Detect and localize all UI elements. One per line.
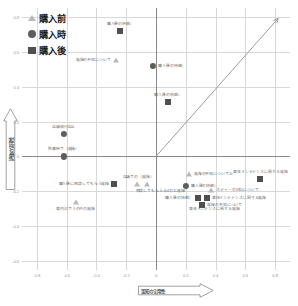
gridline-vertical — [216, 8, 217, 270]
floating-label: 車体メンテンスに関する故障 — [189, 207, 240, 211]
y-axis-tick-label: 0.8 — [2, 14, 19, 19]
data-point-square — [117, 28, 123, 34]
y-axis-tick-label: -0.6 — [2, 259, 19, 264]
x-axis-tick-label: 0.6 — [243, 273, 249, 278]
gridline-vertical — [186, 8, 187, 270]
x-axis-tick-label: -0.6 — [63, 273, 70, 278]
data-point-triangle — [144, 182, 150, 187]
triangle-marker-icon — [28, 15, 36, 21]
gridline-vertical — [67, 8, 68, 270]
data-point-label: 購入後の特典） — [107, 21, 134, 25]
y-axis-line — [156, 8, 157, 270]
data-point-square — [165, 99, 171, 105]
data-point-label: 故障の不知について — [76, 58, 111, 62]
square-marker-icon — [28, 47, 36, 55]
gridline-vertical — [126, 8, 127, 270]
legend-item-purchase-before: 購入前 — [28, 11, 66, 25]
data-point-label: 購入後の特典） — [158, 63, 185, 67]
chart-legend: 購入前 購入時 購入後 — [28, 11, 66, 57]
data-point-triangle — [186, 171, 192, 176]
y-axis-tick-label: 0 — [2, 154, 19, 159]
data-point-label: 購入後の特典） — [191, 184, 218, 188]
y-axis-tick-label: -0.2 — [2, 189, 19, 194]
legend-item-purchase-during: 購入時 — [28, 27, 66, 41]
x-axis-tick-label: 0.2 — [183, 273, 189, 278]
x-axis-tick-label: 0 — [155, 273, 157, 278]
legend-label: 購入前 — [39, 11, 66, 25]
y-axis-tick-label: 0.2 — [2, 119, 19, 124]
gridline-vertical — [96, 8, 97, 270]
legend-item-purchase-after: 購入後 — [28, 43, 66, 57]
data-point-triangle — [113, 58, 119, 63]
data-point-label: 購入後の特典） — [165, 196, 192, 200]
gridline-vertical — [275, 8, 276, 270]
x-axis-title-arrow: 認知の実用性 — [138, 283, 214, 298]
x-axis-title: 認知の実用性 — [141, 288, 164, 294]
data-point-label: 購入後の特典） — [154, 93, 181, 97]
data-point-square — [257, 176, 263, 182]
x-axis-tick-label: -0.2 — [123, 273, 130, 278]
x-axis-tick-label: -0.4 — [93, 273, 100, 278]
floating-label: 店舗での（故障） — [123, 175, 154, 179]
legend-label: 購入時 — [39, 27, 66, 41]
floating-label: 相談してもらえ点4のお故障） — [136, 189, 189, 193]
data-point-label: 故障の不知についてお — [194, 172, 233, 176]
y-axis-tick-label: 0.6 — [2, 49, 19, 54]
circle-marker-icon — [28, 30, 36, 38]
data-point-label: 購入後に相談してもらう故障 — [59, 182, 110, 186]
legend-label: 購入後 — [39, 43, 66, 57]
y-axis-tick-label: 0.4 — [2, 84, 19, 89]
x-axis-tick-label: -0.8 — [33, 273, 40, 278]
data-point-square — [111, 181, 117, 187]
data-point-triangle — [134, 182, 140, 187]
data-point-triangle — [73, 199, 79, 204]
data-point-label: 店舗停行記よ — [52, 125, 75, 129]
gridline-vertical — [245, 8, 246, 270]
x-axis-tick-label: 0.8 — [272, 273, 278, 278]
data-point-label: 所事時で（故障） — [48, 147, 79, 151]
x-axis-tick-label: 0.4 — [213, 273, 219, 278]
data-point-label: スティーの対応について — [216, 187, 259, 191]
data-point-label: 車体メンテナンスに関する故障 — [233, 170, 288, 174]
y-axis-tick-label: -0.4 — [2, 224, 19, 229]
data-point-square — [204, 195, 210, 201]
data-point-label: 車内はでうの中の故障 — [56, 207, 95, 211]
chart-root: 故障の不知について車内はでうの中の故障故障の不知についておスティーの対応について… — [0, 0, 298, 306]
data-point-square — [195, 195, 201, 201]
data-point-label: 車体メンテナンスに関する故障 — [212, 196, 267, 200]
